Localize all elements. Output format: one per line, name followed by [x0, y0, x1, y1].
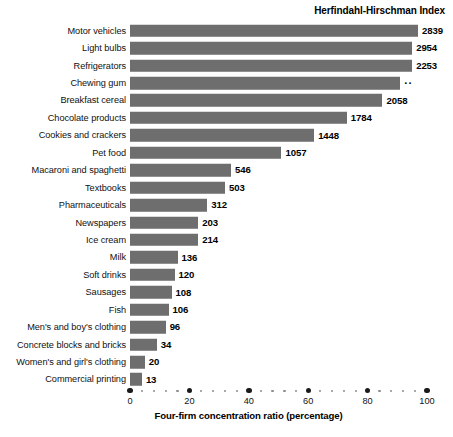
bar: [130, 303, 169, 316]
bar-row: Newspapers203: [0, 214, 453, 231]
bar: [130, 147, 281, 160]
axis-minor-dot: [343, 390, 345, 392]
bar-track: 136: [130, 251, 430, 264]
category-label: Breakfast cereal: [60, 95, 126, 105]
hhi-value-label: 546: [235, 165, 251, 176]
bar-track: 1448: [130, 129, 430, 142]
hhi-column-header: Herfindahl-Hirschman Index: [314, 5, 445, 16]
bar: [130, 199, 207, 212]
bar-track: 108: [130, 286, 430, 299]
bar: [130, 42, 412, 55]
bar-track: 312: [130, 199, 430, 212]
bar: [130, 129, 314, 142]
category-label: Sausages: [86, 287, 126, 297]
bar: [130, 286, 172, 299]
bar-row: Ice cream214: [0, 231, 453, 248]
hhi-value-label: 20: [149, 357, 159, 368]
axis-minor-dot: [295, 390, 297, 392]
hhi-value-label: 2253: [416, 60, 437, 71]
hhi-value-label: ··: [404, 77, 412, 89]
category-label: Commercial printing: [45, 374, 126, 384]
hhi-value-label: 214: [202, 234, 218, 245]
bar: [130, 181, 225, 194]
hhi-value-label: 503: [229, 182, 245, 193]
bar: [130, 356, 145, 369]
hhi-value-label: 203: [202, 217, 218, 228]
category-label: Ice cream: [86, 235, 126, 245]
hhi-value-label: 1784: [351, 112, 372, 123]
category-label: Pharmaceuticals: [59, 200, 126, 210]
bar-rows-container: Motor vehicles2839Light bulbs2954Refrige…: [0, 22, 453, 388]
bar-row: Women's and girl's clothing20: [0, 353, 453, 370]
category-label: Fish: [109, 305, 126, 315]
axis-minor-dot: [319, 390, 321, 392]
axis-minor-dot: [414, 390, 416, 392]
axis-minor-dot: [331, 390, 333, 392]
category-label: Chocolate products: [48, 113, 126, 123]
hhi-value-label: 34: [161, 339, 171, 350]
hhi-value-label: 2954: [416, 43, 437, 54]
axis-tick-label: 80: [362, 396, 372, 406]
bar-track: 2954: [130, 42, 430, 55]
axis-tick-label: 100: [419, 396, 434, 406]
axis-minor-dot: [212, 390, 214, 392]
bar: [130, 112, 347, 125]
hhi-value-label: 1057: [285, 147, 306, 158]
hhi-value-label: 120: [179, 269, 195, 280]
category-label: Macaroni and spaghetti: [32, 165, 126, 175]
x-axis-title: Four-firm concentration ratio (percentag…: [0, 410, 453, 421]
axis-tick-dot: [365, 388, 370, 393]
bar-row: Refrigerators2253: [0, 57, 453, 74]
axis-minor-dot: [153, 390, 155, 392]
axis-tick-dot: [187, 388, 192, 393]
bar-track: 1057: [130, 147, 430, 160]
axis-minor-dot: [355, 390, 357, 392]
bar: [130, 94, 382, 107]
axis-minor-dot: [200, 390, 202, 392]
bar: [130, 164, 231, 177]
bar-track: 120: [130, 269, 430, 282]
bar-row: Milk136: [0, 249, 453, 266]
axis-tick-dot: [246, 388, 251, 393]
bar-track: 546: [130, 164, 430, 177]
hhi-value-label: 2839: [422, 25, 443, 36]
hhi-value-label: 108: [176, 287, 192, 298]
axis-minor-dot: [271, 390, 273, 392]
axis-minor-dot: [176, 390, 178, 392]
bar-row: Motor vehicles2839: [0, 22, 453, 39]
bar-track: ··: [130, 77, 430, 90]
hhi-value-label: 136: [182, 252, 198, 263]
bar: [130, 269, 175, 282]
category-label: Pet food: [92, 148, 126, 158]
bar-track: 503: [130, 181, 430, 194]
bar-row: Breakfast cereal2058: [0, 92, 453, 109]
bar-row: Macaroni and spaghetti546: [0, 162, 453, 179]
hhi-value-label: 312: [211, 200, 227, 211]
category-label: Chewing gum: [70, 78, 126, 88]
hhi-value-label: 106: [173, 304, 189, 315]
bar: [130, 251, 178, 264]
bar-row: Chewing gum··: [0, 74, 453, 91]
axis-minor-dot: [236, 390, 238, 392]
category-label: Motor vehicles: [67, 26, 126, 36]
bar-track: 20: [130, 356, 430, 369]
bar: [130, 216, 198, 229]
hhi-value-label: 1448: [318, 130, 339, 141]
concentration-ratio-chart: Herfindahl-Hirschman Index Motor vehicle…: [0, 0, 453, 437]
category-label: Soft drinks: [83, 270, 126, 280]
category-label: Milk: [110, 252, 126, 262]
category-label: Light bulbs: [82, 43, 126, 53]
hhi-value-label: 13: [146, 374, 156, 385]
x-axis-title-text: Four-firm concentration ratio (percentag…: [110, 410, 342, 421]
bar-row: Sausages108: [0, 284, 453, 301]
bar: [130, 59, 412, 72]
bar-track: 203: [130, 216, 430, 229]
bar-row: Soft drinks120: [0, 266, 453, 283]
bar: [130, 234, 198, 247]
category-label: Men's and boy's clothing: [27, 322, 126, 332]
category-label: Newspapers: [75, 218, 126, 228]
axis-tick-dot: [306, 388, 311, 393]
hhi-value-label: 2058: [386, 95, 407, 106]
axis-tick-dot: [127, 388, 132, 393]
axis-minor-dot: [141, 390, 143, 392]
